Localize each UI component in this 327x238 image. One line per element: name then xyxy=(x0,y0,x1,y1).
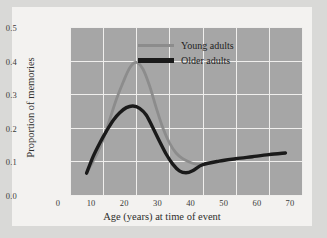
legend-label: Older adults xyxy=(181,55,230,66)
x-tick-label: 50 xyxy=(209,198,239,208)
y-tick-label: 0.0 xyxy=(0,191,17,201)
legend-label: Young adults xyxy=(181,40,234,51)
legend-item-older-adults: Older adults xyxy=(138,53,288,68)
x-tick-label: 10 xyxy=(76,198,106,208)
legend-swatch-young-adults xyxy=(138,44,174,48)
y-tick-label: 0.3 xyxy=(0,90,17,100)
x-tick-label: 0 xyxy=(43,198,73,208)
gridline-vertical xyxy=(302,27,303,195)
x-tick-label: 30 xyxy=(142,198,172,208)
y-tick-label: 0.5 xyxy=(0,23,17,33)
y-tick-label: 0.1 xyxy=(0,157,17,167)
series-line-young-adults xyxy=(87,62,203,173)
x-tick-label: 70 xyxy=(275,198,305,208)
y-tick-label: 0.4 xyxy=(0,57,17,67)
x-tick-label: 60 xyxy=(242,198,272,208)
x-tick-label: 40 xyxy=(176,198,206,208)
y-tick-label: 0.2 xyxy=(0,124,17,134)
series-line-older-adults xyxy=(87,106,286,173)
chart-screenshot: 0.5 0.4 0.3 0.2 0.1 0.0 0 10 20 30 40 50… xyxy=(0,0,327,238)
x-axis-label: Age (years) at time of event xyxy=(12,211,312,222)
legend-item-young-adults: Young adults xyxy=(138,38,288,53)
x-tick-label: 20 xyxy=(109,198,139,208)
legend: Young adults Older adults xyxy=(138,38,288,68)
chart-card: 0.5 0.4 0.3 0.2 0.1 0.0 0 10 20 30 40 50… xyxy=(12,7,312,226)
y-axis-label: Proportion of memories xyxy=(25,28,36,188)
legend-swatch-older-adults xyxy=(138,58,174,63)
gridline-horizontal xyxy=(70,195,302,196)
